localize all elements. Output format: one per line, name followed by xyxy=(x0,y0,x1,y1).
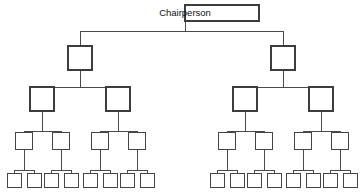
connector-group-level3-to-level4 xyxy=(24,111,340,132)
level5-nodes xyxy=(7,173,357,187)
org-chart-container: Chairperson xyxy=(0,0,364,196)
node-level3-a[interactable] xyxy=(30,87,54,111)
node-level5-i[interactable] xyxy=(210,173,224,187)
level4-nodes xyxy=(16,132,349,149)
node-level4-e[interactable] xyxy=(219,132,236,149)
node-chairperson[interactable]: Chairperson xyxy=(159,5,259,21)
node-level5-c[interactable] xyxy=(44,173,58,187)
node-level2-left[interactable] xyxy=(68,46,92,70)
level2-nodes xyxy=(68,46,295,70)
node-level3-b[interactable] xyxy=(106,87,130,111)
node-level5-d[interactable] xyxy=(64,173,78,187)
node-level4-c[interactable] xyxy=(92,132,109,149)
node-level4-a[interactable] xyxy=(16,132,33,149)
chairperson-label: Chairperson xyxy=(159,7,211,18)
node-level5-j[interactable] xyxy=(230,173,244,187)
node-level3-c[interactable] xyxy=(233,87,257,111)
node-level5-g[interactable] xyxy=(120,173,134,187)
node-level4-g[interactable] xyxy=(295,132,312,149)
node-level4-h[interactable] xyxy=(332,132,349,149)
node-level5-m[interactable] xyxy=(286,173,300,187)
connector-group-level1-to-level2 xyxy=(80,21,283,46)
level3-nodes xyxy=(30,87,333,111)
connector-group-level2-to-level3 xyxy=(42,70,321,87)
node-level5-l[interactable] xyxy=(267,173,281,187)
org-chart-canvas: Chairperson xyxy=(0,0,364,196)
node-level5-o[interactable] xyxy=(323,173,337,187)
node-level4-b[interactable] xyxy=(53,132,70,149)
node-level4-f[interactable] xyxy=(256,132,273,149)
node-level5-n[interactable] xyxy=(306,173,320,187)
node-level5-h[interactable] xyxy=(140,173,154,187)
node-level3-d[interactable] xyxy=(309,87,333,111)
node-level5-k[interactable] xyxy=(247,173,261,187)
connector-group-level4-to-level5 xyxy=(14,149,350,173)
node-level2-right[interactable] xyxy=(271,46,295,70)
node-level5-p[interactable] xyxy=(343,173,357,187)
node-level5-f[interactable] xyxy=(103,173,117,187)
node-level5-e[interactable] xyxy=(83,173,97,187)
node-level4-d[interactable] xyxy=(129,132,146,149)
node-level5-a[interactable] xyxy=(7,173,21,187)
node-level5-b[interactable] xyxy=(27,173,41,187)
